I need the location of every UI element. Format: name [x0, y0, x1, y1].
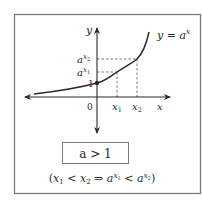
- a-x1-label: ax1: [77, 66, 90, 78]
- x2-label: x2: [132, 101, 142, 114]
- implication-formula: (x1 < x2 ⇒ ax1 < ax2): [49, 171, 156, 186]
- a-x2-label: ax2: [77, 53, 90, 65]
- curve-label: y = ax: [156, 27, 191, 42]
- x1-label: x1: [112, 101, 122, 114]
- x-axis-label: x: [157, 101, 163, 112]
- condition-label: a > 1: [79, 147, 111, 161]
- y-intercept-point: [95, 81, 99, 85]
- origin-label: 0: [87, 102, 93, 112]
- y-axis-label: y: [85, 24, 93, 37]
- one-label: 1: [88, 79, 94, 89]
- exponential-function-diagram: y = ax y ax2 ax1 1 0 x1 x2 x a > 1: [0, 0, 203, 201]
- dashed-guides: [97, 59, 137, 97]
